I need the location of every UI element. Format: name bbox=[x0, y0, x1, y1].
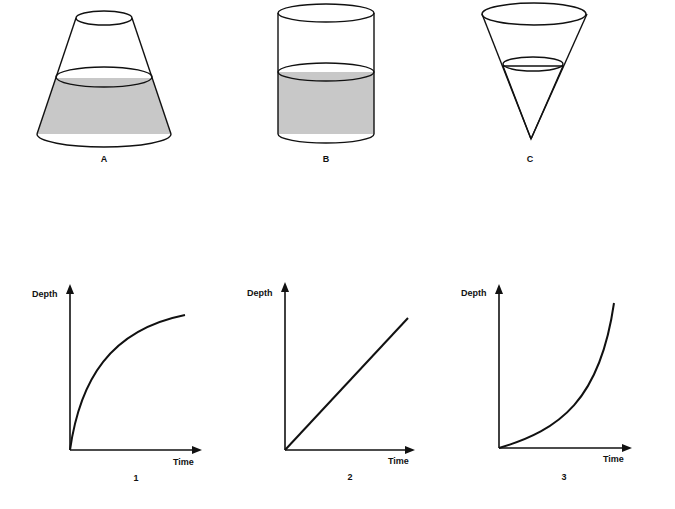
graph-1-ylabel: Depth bbox=[32, 289, 58, 299]
diagram-canvas: A B C Depth Time 1 Depth Ti bbox=[0, 0, 675, 509]
container-a: A bbox=[37, 11, 171, 164]
graph-3-ylabel: Depth bbox=[461, 288, 487, 298]
graph-1-xlabel: Time bbox=[173, 457, 194, 467]
graph-3-number: 3 bbox=[561, 472, 566, 482]
container-b-label: B bbox=[323, 154, 330, 164]
container-c: C bbox=[482, 3, 587, 164]
graph-3-xlabel: Time bbox=[603, 454, 624, 464]
graph-2-ylabel: Depth bbox=[247, 288, 273, 298]
container-c-label: C bbox=[527, 154, 534, 164]
container-a-label: A bbox=[101, 154, 108, 164]
graph-2: Depth Time 2 bbox=[247, 282, 415, 482]
graph-3: Depth Time 3 bbox=[461, 284, 632, 482]
graph-1-number: 1 bbox=[133, 473, 138, 483]
graph-2-xlabel: Time bbox=[388, 456, 409, 466]
graph-2-number: 2 bbox=[347, 472, 352, 482]
graph-1: Depth Time 1 bbox=[32, 284, 202, 483]
container-b: B bbox=[278, 4, 374, 164]
